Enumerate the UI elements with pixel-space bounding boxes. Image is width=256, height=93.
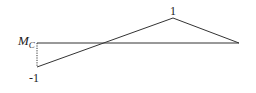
left-value-label: -1 xyxy=(29,71,39,85)
falling-segment xyxy=(173,18,239,43)
influence-line-diagram: 1 -1 MC xyxy=(0,0,256,93)
quantity-subscript: C xyxy=(29,40,36,50)
quantity-label: MC xyxy=(17,33,36,50)
peak-value-label: 1 xyxy=(170,4,176,18)
